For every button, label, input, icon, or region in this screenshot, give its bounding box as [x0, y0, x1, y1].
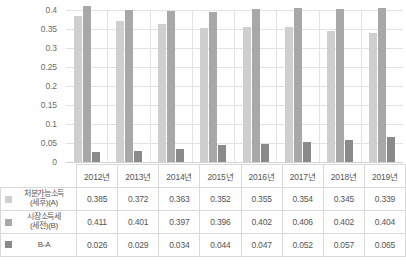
axis-baseline: [66, 162, 403, 163]
bar[interactable]: [83, 6, 91, 162]
y-axis-tick-label: 0.4: [45, 6, 57, 15]
legend-swatch-icon: [5, 241, 12, 248]
table-cell-value: 0.354: [282, 188, 323, 211]
column-header-year: 2013년: [118, 165, 159, 188]
table-header-row: 2012년2013년2014년2015년2016년2017년2018년2019년: [1, 165, 406, 188]
bar[interactable]: [369, 33, 377, 162]
legend-label: 처분가능소득(세후)(A): [16, 190, 76, 208]
bar-group: [66, 10, 108, 162]
bar[interactable]: [294, 8, 302, 162]
bar-group: [192, 10, 234, 162]
table-cell-value: 0.401: [118, 211, 159, 234]
table-cell-value: 0.402: [241, 211, 282, 234]
table-cell-value: 0.044: [200, 234, 241, 257]
column-header-year: 2015년: [200, 165, 241, 188]
y-axis-tick-label: 0.35: [41, 25, 57, 34]
legend-entry[interactable]: B-A: [1, 234, 77, 257]
y-axis-tick-label: 0.05: [41, 139, 57, 148]
legend-swatch-icon: [5, 196, 12, 203]
data-table: 2012년2013년2014년2015년2016년2017년2018년2019년…: [0, 164, 406, 257]
bar-group: [235, 10, 277, 162]
y-axis-tick-label: 0.1: [45, 120, 57, 129]
table-cell-value: 0.047: [241, 234, 282, 257]
legend-label-line2: (세후)(A): [16, 199, 72, 208]
bar[interactable]: [218, 145, 226, 162]
legend-label: 시장소득세(세전)(B): [16, 213, 76, 231]
bar[interactable]: [327, 31, 335, 162]
bar[interactable]: [134, 151, 142, 162]
table-row: B-A0.0260.0290.0340.0440.0470.0520.0570.…: [1, 234, 406, 257]
bar[interactable]: [378, 8, 386, 162]
column-header-year: 2014년: [159, 165, 200, 188]
table-cell-value: 0.385: [77, 188, 118, 211]
table-cell-value: 0.397: [159, 211, 200, 234]
y-axis-tick-label: 0.25: [41, 63, 57, 72]
table-cell-value: 0.402: [323, 211, 364, 234]
table-cell-value: 0.355: [241, 188, 282, 211]
bar-group: [319, 10, 361, 162]
legend-swatch-icon: [5, 219, 12, 226]
bar-group: [150, 10, 192, 162]
y-axis-tick-label: 0.15: [41, 101, 57, 110]
legend-label: B-A: [16, 241, 76, 250]
table-cell-value: 0.029: [118, 234, 159, 257]
table-cell-value: 0.339: [364, 188, 405, 211]
column-header-year: 2016년: [241, 165, 282, 188]
bar[interactable]: [116, 21, 124, 162]
bar[interactable]: [303, 142, 311, 162]
bar-group: [361, 10, 403, 162]
bar[interactable]: [345, 140, 353, 162]
legend-label-line1: 시장소득세: [27, 212, 61, 221]
bar[interactable]: [158, 24, 166, 162]
y-axis: 0.40.350.30.250.20.150.10.050: [0, 10, 62, 162]
bar[interactable]: [243, 27, 251, 162]
legend-label-line2: (세전)(B): [16, 222, 72, 231]
bar[interactable]: [125, 10, 133, 162]
table-cell-value: 0.065: [364, 234, 405, 257]
bar[interactable]: [261, 144, 269, 162]
table-cell-value: 0.372: [118, 188, 159, 211]
table-row: 처분가능소득(세후)(A)0.3850.3720.3630.3520.3550.…: [1, 188, 406, 211]
bar[interactable]: [387, 137, 395, 162]
bar-group: [108, 10, 150, 162]
y-axis-tick-label: 0.3: [45, 44, 57, 53]
bar[interactable]: [252, 9, 260, 162]
table-cell-value: 0.411: [77, 211, 118, 234]
legend-label-line1: 처분가능소득: [24, 189, 64, 198]
table-cell-value: 0.057: [323, 234, 364, 257]
legend-entry[interactable]: 시장소득세(세전)(B): [1, 211, 77, 234]
table-cell-value: 0.345: [323, 188, 364, 211]
bar-group: [277, 10, 319, 162]
table-header-corner: [1, 165, 77, 188]
table-cell-value: 0.363: [159, 188, 200, 211]
table-cell-value: 0.026: [77, 234, 118, 257]
bar[interactable]: [336, 9, 344, 162]
column-header-year: 2017년: [282, 165, 323, 188]
table-row: 시장소득세(세전)(B)0.4110.4010.3970.3960.4020.4…: [1, 211, 406, 234]
column-header-year: 2018년: [323, 165, 364, 188]
column-header-year: 2012년: [77, 165, 118, 188]
table-cell-value: 0.034: [159, 234, 200, 257]
data-table-wrapper: 2012년2013년2014년2015년2016년2017년2018년2019년…: [0, 164, 405, 257]
table-cell-value: 0.052: [282, 234, 323, 257]
bar[interactable]: [167, 11, 175, 162]
bar[interactable]: [74, 16, 82, 162]
bar[interactable]: [176, 149, 184, 162]
bar-chart: 0.40.350.30.250.20.150.10.050: [0, 0, 405, 172]
table-cell-value: 0.406: [282, 211, 323, 234]
column-header-year: 2019년: [364, 165, 405, 188]
plot-area: [66, 10, 403, 162]
legend-label-line1: B-A: [38, 240, 50, 249]
bar[interactable]: [285, 27, 293, 162]
bar[interactable]: [200, 28, 208, 162]
bar[interactable]: [209, 12, 217, 162]
table-cell-value: 0.404: [364, 211, 405, 234]
legend-entry[interactable]: 처분가능소득(세후)(A): [1, 188, 77, 211]
bar-groups: [66, 10, 403, 162]
bar[interactable]: [92, 152, 100, 162]
table-cell-value: 0.352: [200, 188, 241, 211]
table-cell-value: 0.396: [200, 211, 241, 234]
y-axis-tick-label: 0.2: [45, 82, 57, 91]
